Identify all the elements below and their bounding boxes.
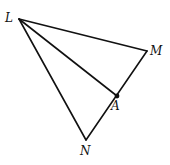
triangle-diagram: L M A N <box>0 0 170 165</box>
label-a: A <box>110 99 120 113</box>
label-n: N <box>79 144 91 158</box>
segment-nl <box>19 19 86 140</box>
point-a-dot <box>115 94 120 99</box>
label-l: L <box>4 11 13 25</box>
label-m: M <box>149 44 163 58</box>
